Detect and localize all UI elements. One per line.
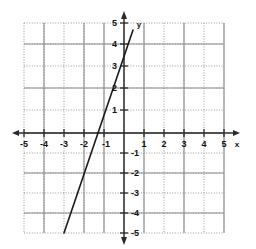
y-tick-label: 2 [112, 83, 117, 93]
y-tick-label: -3 [131, 188, 139, 198]
x-axis-label: x [235, 140, 240, 149]
x-tick-label: -4 [40, 139, 48, 149]
x-tick-label: 4 [201, 139, 206, 149]
chart-background [0, 0, 256, 249]
x-tick-label: 1 [141, 139, 146, 149]
y-tick-label: 5 [112, 18, 117, 28]
x-tick-label: -1 [102, 139, 110, 149]
x-tick-label: -2 [80, 139, 88, 149]
x-tick-label: 3 [181, 139, 186, 149]
y-tick-label: -4 [131, 208, 139, 218]
y-tick-label: -2 [131, 168, 139, 178]
y-tick-label: 1 [112, 105, 117, 115]
x-tick-label: -3 [60, 139, 68, 149]
y-tick-label: -5 [131, 228, 139, 238]
coordinate-plane-svg: -5 -4 -3 -2 -1 1 2 3 4 5 5 4 3 2 1 -1 -2… [0, 0, 256, 249]
x-tick-label: -5 [20, 139, 28, 149]
y-axis-label: y [137, 20, 142, 29]
y-tick-label: 4 [112, 39, 117, 49]
x-tick-label: 5 [221, 139, 226, 149]
y-tick-label: 3 [112, 61, 117, 71]
chart-canvas: -5 -4 -3 -2 -1 1 2 3 4 5 5 4 3 2 1 -1 -2… [0, 0, 256, 249]
y-tick-label: -1 [131, 148, 139, 158]
x-tick-label: 2 [161, 139, 166, 149]
